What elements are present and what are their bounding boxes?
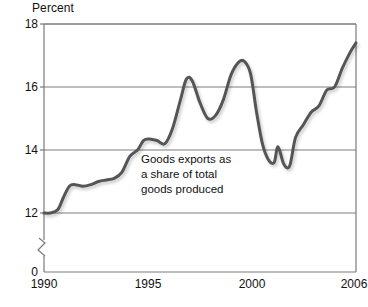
axis-break-icon (38, 238, 45, 256)
chart-container: Percent 18 16 14 12 0 1990 1995 2000 200… (0, 0, 368, 307)
axis-break-zigzag (38, 238, 45, 256)
plot-svg (0, 0, 368, 307)
data-series-line (44, 43, 356, 213)
plot-frame (44, 24, 356, 272)
